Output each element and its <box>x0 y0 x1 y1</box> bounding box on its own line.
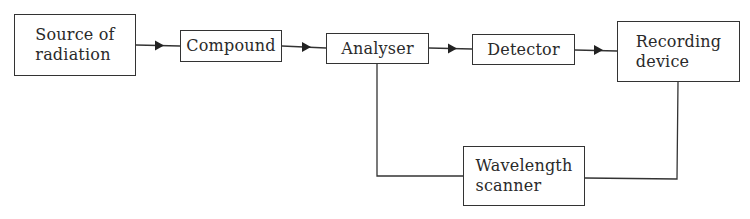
node-label: Recording device <box>636 32 721 72</box>
node-label: Source of radiation <box>35 25 114 65</box>
arrow-head-icon <box>594 45 603 55</box>
node-label: Detector <box>487 40 559 60</box>
source-of-radiation-box: Source of radiation <box>14 14 136 76</box>
arrow-head-icon <box>155 41 164 51</box>
recording-device-box: Recording device <box>617 21 740 82</box>
node-label: Analyser <box>341 39 413 59</box>
detector-box: Detector <box>472 34 575 65</box>
node-label: Compound <box>186 36 275 56</box>
arrow-head-icon <box>448 44 457 54</box>
arrow-head-icon <box>302 42 311 52</box>
compound-box: Compound <box>180 30 282 62</box>
node-label: Wavelength scanner <box>476 156 573 196</box>
wavelength-scanner-box: Wavelength scanner <box>463 146 585 206</box>
analyser-box: Analyser <box>326 33 429 64</box>
